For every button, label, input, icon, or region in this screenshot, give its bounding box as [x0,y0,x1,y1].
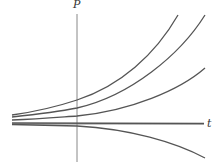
solution-curve-4 [12,123,204,124]
t-axis-label: t [207,117,211,130]
p-axis-label: P [73,0,80,11]
diagram-canvas [0,0,215,162]
solution-curve-3 [12,68,205,120]
solution-curve-5 [12,125,205,159]
solution-curve-1 [12,15,178,115]
solution-curve-2 [12,15,205,117]
